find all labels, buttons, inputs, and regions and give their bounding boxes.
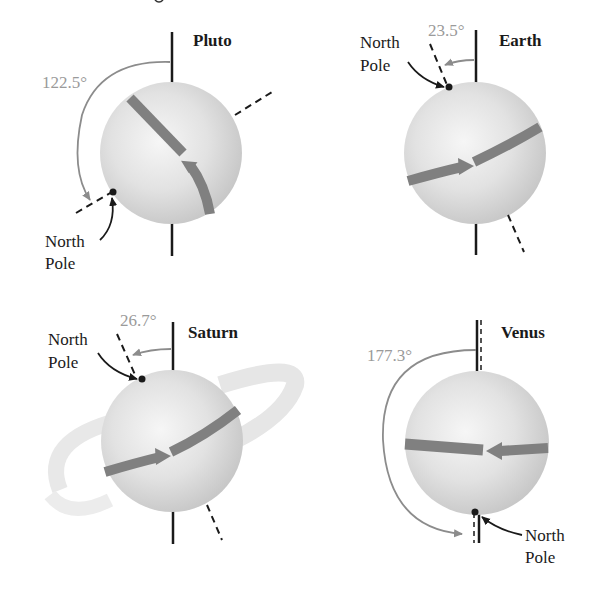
planet-axial-tilt-diagram: 122.5° Pluto North Pole 23.5° Earth Nort… xyxy=(0,0,591,590)
planet-sphere xyxy=(101,370,243,512)
tilt-angle-label: 26.7° xyxy=(120,311,157,330)
panel-saturn: 26.7° Saturn North Pole xyxy=(48,311,295,544)
panel-earth: 23.5° Earth North Pole xyxy=(360,21,546,255)
north-pole-dot xyxy=(472,509,479,516)
north-pole-label-line1: North xyxy=(48,330,88,349)
tilt-angle-label: 177.3° xyxy=(367,346,412,365)
rotation-band xyxy=(405,444,483,450)
planet-sphere xyxy=(100,82,242,224)
ring-front xyxy=(50,495,110,509)
north-pole-pointer xyxy=(98,353,137,379)
north-pole-label-line2: Pole xyxy=(360,56,390,75)
north-pole-pointer xyxy=(408,62,444,87)
north-pole-pointer xyxy=(482,517,522,535)
angle-arc xyxy=(445,60,474,65)
tilted-axis-dashed xyxy=(207,505,222,540)
north-pole-dot xyxy=(446,84,453,91)
panel-pluto: 122.5° Pluto North Pole xyxy=(42,31,272,273)
tilted-axis-dashed xyxy=(508,215,524,252)
north-pole-dot xyxy=(139,376,146,383)
planet-name-label: Pluto xyxy=(193,31,232,50)
north-pole-label-line1: North xyxy=(45,232,85,251)
north-pole-label-line2: Pole xyxy=(45,254,75,273)
tilted-axis-dashed xyxy=(430,44,447,85)
tilted-axis-dashed xyxy=(117,334,136,377)
north-pole-label-line2: Pole xyxy=(48,353,78,372)
planet-name-label: Earth xyxy=(499,31,542,50)
north-pole-pointer xyxy=(100,198,113,240)
tilted-axis-dashed xyxy=(235,92,272,115)
planet-name-label: Saturn xyxy=(188,323,239,342)
caption-fragment xyxy=(60,0,260,3)
north-pole-label-line1: North xyxy=(525,526,565,545)
tilt-angle-label: 122.5° xyxy=(42,73,87,92)
planet-name-label: Venus xyxy=(501,323,545,342)
tilted-axis-dashed xyxy=(76,192,112,213)
north-pole-dot xyxy=(110,189,117,196)
north-pole-label-line2: Pole xyxy=(525,548,555,567)
north-pole-label-line1: North xyxy=(360,33,400,52)
planet-sphere xyxy=(404,82,546,224)
tilt-angle-label: 23.5° xyxy=(428,21,465,40)
angle-arc xyxy=(133,349,171,355)
rotation-band xyxy=(500,448,548,451)
panel-venus: 177.3° Venus North Pole xyxy=(367,320,565,567)
